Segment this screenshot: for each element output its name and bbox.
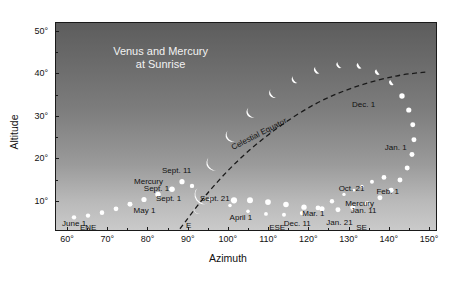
x-tick-label-110°: 110° xyxy=(259,234,277,244)
mercury-marker-7 xyxy=(169,187,175,193)
venus-marker-14 xyxy=(410,122,415,127)
x-tick-label-90°: 90° xyxy=(181,234,195,244)
x-tick-label-140°: 140° xyxy=(379,234,398,244)
x-tick-major-150° xyxy=(429,227,430,231)
mercury-marker-17 xyxy=(330,199,334,203)
compass-direction-ene: ENE xyxy=(80,222,96,231)
compass-direction-ese: ESE xyxy=(269,222,285,231)
x-tick-major-90° xyxy=(188,227,189,231)
annotation-mar-1: Mar. 1 xyxy=(302,209,324,218)
mercury-marker-13 xyxy=(264,212,268,216)
annotation-jan-1: Jan. 1 xyxy=(385,142,407,151)
mercury-marker-8 xyxy=(179,179,184,184)
annotation-jan-11: Jan. 11 xyxy=(351,205,377,214)
x-tick-label-60°: 60° xyxy=(60,234,74,244)
x-tick-label-120°: 120° xyxy=(299,234,318,244)
x-tick-major-110° xyxy=(268,227,269,231)
mercury-marker-3 xyxy=(114,206,119,211)
mercury-marker-22 xyxy=(382,175,387,180)
x-tick-minor xyxy=(288,228,289,231)
mercury-marker-11 xyxy=(228,204,232,208)
mercury-marker-2 xyxy=(100,210,105,215)
venus-marker-23 xyxy=(335,207,340,212)
x-tick-label-100°: 100° xyxy=(219,234,238,244)
venus-marker-28 xyxy=(247,197,253,203)
y-tick-minor xyxy=(55,95,58,96)
y-tick-minor xyxy=(55,52,58,53)
mercury-marker-4 xyxy=(128,202,133,207)
annotation-may-1: May 1 xyxy=(134,205,156,214)
x-tick-major-60° xyxy=(67,227,68,231)
venus-crescent-8 xyxy=(335,62,342,70)
y-tick-major-30° xyxy=(55,116,59,117)
x-tick-label-150°: 150° xyxy=(420,234,439,244)
annotation-oct-21: Oct. 21 xyxy=(339,183,365,192)
figure-root: Venus and Mercuryat SunriseCelestial Equ… xyxy=(0,0,456,284)
venus-marker-17 xyxy=(405,166,410,171)
venus-marker-18 xyxy=(397,177,402,182)
venus-marker-29 xyxy=(231,197,237,203)
x-tick-major-100° xyxy=(228,227,229,231)
plot-area: Venus and Mercuryat SunriseCelestial Equ… xyxy=(55,22,437,231)
mercury-marker-5 xyxy=(141,197,146,202)
venus-crescent-7 xyxy=(313,66,321,75)
annotation-sept-1: Sept. 1 xyxy=(156,193,181,202)
mercury-marker-9 xyxy=(190,184,194,188)
annotation-feb-1: Feb. 1 xyxy=(376,187,399,196)
annotation-dec-11: Dec. 11 xyxy=(284,218,311,227)
y-tick-major-50° xyxy=(55,31,59,32)
x-tick-minor xyxy=(409,228,410,231)
annotation-april-1: April 1 xyxy=(230,213,253,222)
x-tick-major-80° xyxy=(147,227,148,231)
y-tick-major-40° xyxy=(55,73,59,74)
y-tick-minor xyxy=(55,137,58,138)
mercury-marker-21 xyxy=(370,180,374,184)
venus-marker-15 xyxy=(411,137,416,142)
x-tick-minor xyxy=(168,228,169,231)
x-tick-minor xyxy=(87,228,88,231)
x-axis-title: Azimuth xyxy=(0,252,456,264)
venus-marker-27 xyxy=(265,199,271,205)
y-tick-label-10°: 10° xyxy=(8,196,48,206)
y-tick-major-10° xyxy=(55,201,59,202)
x-tick-major-140° xyxy=(389,227,390,231)
annotation-jan-21: Jan. 21 xyxy=(326,217,352,226)
x-tick-major-70° xyxy=(107,227,108,231)
y-tick-label-40°: 40° xyxy=(8,68,48,78)
venus-crescent-5 xyxy=(267,89,277,100)
venus-marker-12 xyxy=(399,93,404,98)
x-tick-major-120° xyxy=(308,227,309,231)
y-tick-major-20° xyxy=(55,158,59,159)
x-tick-label-130°: 130° xyxy=(339,234,358,244)
venus-crescent-4 xyxy=(244,108,255,120)
x-tick-minor xyxy=(369,228,370,231)
annotation-sept-1: Sept. 1 xyxy=(144,184,169,193)
annotation-at-sunrise: at Sunrise xyxy=(136,58,186,70)
y-tick-label-50°: 50° xyxy=(8,26,48,36)
x-tick-major-130° xyxy=(349,227,350,231)
x-tick-label-70°: 70° xyxy=(100,234,114,244)
x-tick-minor xyxy=(208,228,209,231)
annotation-sept-11: Sept. 11 xyxy=(162,165,191,174)
venus-marker-20 xyxy=(377,195,382,200)
mercury-marker-14 xyxy=(282,213,286,217)
venus-crescent-9 xyxy=(356,63,362,70)
compass-direction-se: SE xyxy=(356,222,367,231)
annotation-venus-and-mercury: Venus and Mercury xyxy=(113,45,208,57)
x-tick-minor xyxy=(328,228,329,231)
annotation-dec-1: Dec. 1 xyxy=(352,100,375,109)
venus-marker-26 xyxy=(283,202,289,208)
venus-crescent-2 xyxy=(203,157,218,174)
annotation-sept-21: Sept. 21 xyxy=(200,193,230,202)
mercury-marker-1 xyxy=(86,213,90,217)
venus-crescent-6 xyxy=(290,75,298,84)
mercury-marker-18 xyxy=(342,193,345,196)
venus-marker-13 xyxy=(406,107,411,112)
x-tick-label-80°: 80° xyxy=(141,234,155,244)
venus-marker-16 xyxy=(409,152,414,157)
y-tick-minor xyxy=(55,180,58,181)
venus-crescent-11 xyxy=(388,80,393,86)
venus-crescent-10 xyxy=(374,69,380,76)
x-tick-minor xyxy=(127,228,128,231)
x-tick-minor xyxy=(248,228,249,231)
